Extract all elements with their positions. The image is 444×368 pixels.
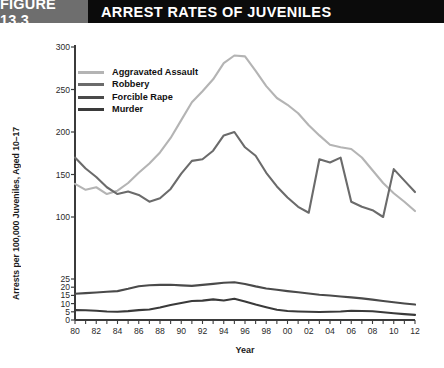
figure-root: FIGURE 13.3 ARREST RATES OF JUVENILES Ar… <box>0 0 444 368</box>
y-tick-label: 250 <box>40 85 70 95</box>
y-tick-label: 100 <box>40 212 70 222</box>
y-tick-label: 300 <box>40 42 70 52</box>
y-tick-label: 200 <box>40 127 70 137</box>
legend-label: Aggravated Assault <box>112 68 198 77</box>
legend-item: Forcible Rape <box>78 91 198 104</box>
legend-color-swatch <box>78 108 104 111</box>
chart-legend: Aggravated AssaultRobberyForcible RapeMu… <box>78 66 198 116</box>
x-tick-label: 12 <box>403 326 427 336</box>
figure-header: FIGURE 13.3 ARREST RATES OF JUVENILES <box>0 0 444 23</box>
figure-title: ARREST RATES OF JUVENILES <box>88 0 444 23</box>
legend-item: Aggravated Assault <box>78 66 198 79</box>
legend-item: Murder <box>78 104 198 117</box>
y-tick-label: 150 <box>40 170 70 180</box>
series-line-murder <box>75 299 415 315</box>
legend-color-swatch <box>78 71 104 74</box>
legend-label: Robbery <box>112 80 149 89</box>
legend-label: Forcible Rape <box>112 93 173 102</box>
legend-label: Murder <box>112 105 143 114</box>
figure-body: Arrests per 100,000 Juveniles, Aged 10–1… <box>0 23 444 368</box>
y-tick-label: 25 <box>40 274 70 284</box>
figure-number-tag: FIGURE 13.3 <box>0 0 88 23</box>
legend-color-swatch <box>78 96 104 99</box>
series-line-robbery <box>75 132 415 217</box>
legend-item: Robbery <box>78 79 198 92</box>
legend-color-swatch <box>78 83 104 86</box>
